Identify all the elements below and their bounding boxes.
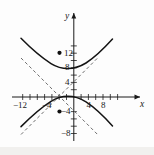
asymptote-negative-slope xyxy=(21,58,98,135)
axis-ticks xyxy=(23,46,118,134)
focus-upper-point xyxy=(57,51,61,55)
y-tick-label-minus-8: −8 xyxy=(61,129,71,138)
x-tick-label-minus-4: −4 xyxy=(42,101,52,110)
bottom-band xyxy=(0,147,154,155)
y-tick-label-8: 8 xyxy=(65,63,70,72)
asymptotes xyxy=(21,58,98,135)
hyperbola-figure: 12 8 4 −4 −8 −12 −4 4 8 y x xyxy=(0,0,154,155)
x-axis-label: x xyxy=(140,100,144,110)
foci-points xyxy=(57,51,61,114)
y-axis xyxy=(71,13,76,141)
y-tick-label-minus-4: −4 xyxy=(61,107,71,116)
plot-canvas xyxy=(0,0,154,155)
x-tick-label-8: 8 xyxy=(101,101,106,110)
y-tick-label-12: 12 xyxy=(64,49,73,58)
x-tick-label-4: 4 xyxy=(87,101,92,110)
y-tick-label-4: 4 xyxy=(65,78,70,87)
y-axis-label: y xyxy=(65,12,69,22)
x-tick-label-minus-12: −12 xyxy=(13,101,27,110)
